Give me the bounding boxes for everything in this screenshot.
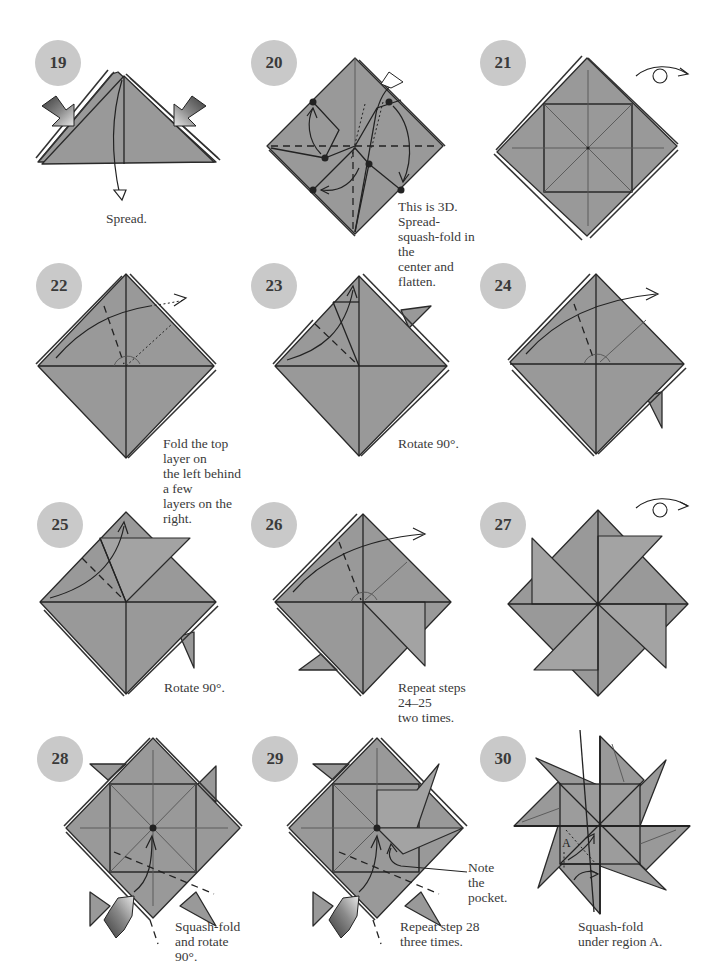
caption-line: squash-fold in the [398, 229, 482, 259]
step-30-caption: Squash-fold under region A. [578, 919, 662, 949]
push-arrow-icon [174, 96, 206, 126]
step-22-panel: 22 Fold the top layer on the left behind… [0, 260, 241, 500]
region-label: A [562, 836, 571, 850]
step-number: 30 [495, 749, 512, 769]
step-20-panel: 20 This is 3D. Spread- squash-fold in th… [241, 0, 482, 260]
caption-line: Squash-fold [578, 919, 662, 934]
caption-line: Rotate 90°. [164, 680, 225, 695]
step-number: 22 [51, 276, 68, 296]
caption-line: This is 3D. Spread- [398, 199, 482, 229]
step-number-badge: 22 [36, 263, 82, 309]
step-21-panel: 21 [482, 0, 723, 260]
step-29-caption: Repeat step 28 three times. [400, 919, 479, 949]
step-number-badge: 21 [480, 40, 526, 86]
step-25-panel: 25 Rotate 90°. [0, 500, 241, 730]
step-number: 23 [266, 276, 283, 296]
caption-line: under region A. [578, 934, 662, 949]
step-26-caption: Repeat steps 24–25 two times. [398, 680, 482, 725]
step-number: 21 [495, 53, 512, 73]
caption-line: three times. [400, 934, 479, 949]
reference-dot-icon [374, 825, 381, 832]
step-number: 20 [266, 53, 283, 73]
step-number-badge: 27 [480, 502, 526, 548]
step-23-caption: Rotate 90°. [398, 436, 459, 451]
open-arrow-icon [381, 72, 403, 88]
step-number: 29 [267, 749, 284, 769]
step-19-panel: 19 Spread. [0, 0, 241, 260]
step-30-panel: A 30 Squash-fold under region A. [482, 730, 723, 979]
step-number-badge: 30 [480, 736, 526, 782]
caption-line: Squash-fold [175, 919, 241, 934]
step-number-badge: 29 [252, 736, 298, 782]
open-arrow-icon [114, 190, 126, 200]
step-21-diagram [482, 0, 723, 260]
step-number-badge: 28 [37, 736, 83, 782]
caption-line: Repeat step 28 [400, 919, 479, 934]
step-28-caption: Squash-fold and rotate 90°. [175, 919, 241, 964]
step-number-badge: 19 [35, 40, 81, 86]
caption-line: the left behind a few [163, 466, 241, 496]
step-number-badge: 24 [480, 263, 526, 309]
step-23-panel: 23 Rotate 90°. [241, 260, 482, 500]
step-24-panel: 24 [482, 260, 723, 500]
step-number-badge: 23 [251, 263, 297, 309]
step-25-caption: Rotate 90°. [164, 680, 225, 695]
step-number: 26 [266, 515, 283, 535]
push-arrow-icon [104, 896, 134, 938]
step-29-panel: 29 Note the pocket. Repeat step 28 three… [241, 730, 482, 979]
step-19-caption: Spread. [106, 211, 147, 226]
step-27-panel: 27 [482, 500, 723, 730]
step-26-panel: 26 Repeat steps 24–25 two times. [241, 500, 482, 730]
reference-dot-icon [150, 825, 157, 832]
caption-line: Spread. [106, 211, 147, 226]
caption-line: Fold the top layer on [163, 436, 241, 466]
caption-line: Repeat steps 24–25 [398, 680, 482, 710]
step-number-badge: 20 [251, 40, 297, 86]
push-arrow-icon [42, 96, 74, 126]
push-arrow-icon [329, 896, 359, 938]
turn-over-icon [636, 499, 688, 517]
step-25-diagram [0, 500, 241, 730]
step-number: 19 [50, 53, 67, 73]
caption-line: and rotate 90°. [175, 934, 241, 964]
caption-line: two times. [398, 710, 482, 725]
step-28-panel: 28 Squash-fold and rotate 90°. [0, 730, 241, 979]
step-number: 28 [52, 749, 69, 769]
caption-line: Rotate 90°. [398, 436, 459, 451]
turn-over-icon [636, 67, 688, 83]
step-number: 27 [495, 515, 512, 535]
step-number-badge: 25 [37, 502, 83, 548]
step-number: 24 [495, 276, 512, 296]
step-number-badge: 26 [251, 502, 297, 548]
step-number: 25 [52, 515, 69, 535]
